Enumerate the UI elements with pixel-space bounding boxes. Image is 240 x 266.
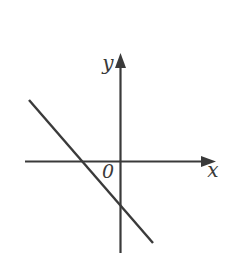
figure-panel: D xy0 <box>0 0 240 266</box>
y-axis-label: y <box>101 51 114 75</box>
plotted-line <box>29 100 153 243</box>
x-axis-label: x <box>207 158 218 182</box>
origin-label: 0 <box>102 160 114 182</box>
y-axis-arrowhead <box>115 53 126 68</box>
coordinate-plane-figure: xy0 <box>0 0 240 266</box>
